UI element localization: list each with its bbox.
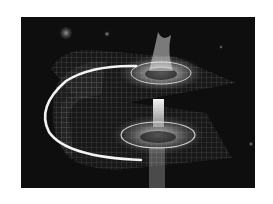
upper-funnel xyxy=(119,32,203,91)
wormhole-illustration xyxy=(21,17,255,188)
